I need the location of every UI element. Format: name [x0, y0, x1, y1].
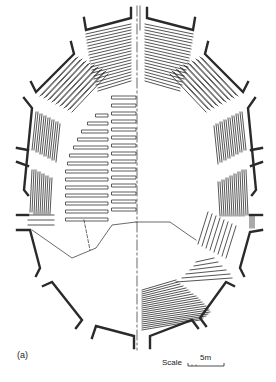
outer-wall	[17, 8, 262, 348]
seating-left-side	[28, 112, 60, 225]
scale-ruler-icon	[162, 355, 242, 369]
stage-outline	[32, 220, 196, 258]
seating-right-side	[214, 112, 254, 228]
scale-bar: Scale 5m	[162, 355, 242, 369]
floor-plan-diagram	[0, 0, 276, 382]
seating-top-right	[145, 24, 193, 91]
center-axis	[137, 6, 140, 350]
seating-top-left	[86, 24, 131, 91]
seating-stalls-left	[66, 96, 136, 221]
figure-label: (a)	[17, 350, 28, 360]
seating-lower-right	[142, 212, 236, 330]
